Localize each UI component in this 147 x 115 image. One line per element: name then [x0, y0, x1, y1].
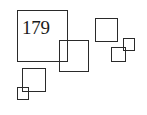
tiny-left-square [17, 87, 29, 100]
page-number-ornament: 179 [0, 0, 147, 115]
lower-right-square [111, 47, 126, 62]
page-number: 179 [22, 18, 50, 37]
upper-right-square [95, 18, 118, 42]
medium-square-overlap [59, 40, 89, 72]
